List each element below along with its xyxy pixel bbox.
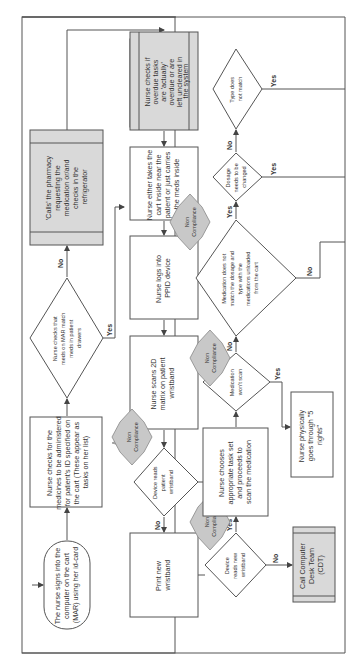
check-medicines-box: Nurse checks for the medicines to be adm… [30, 414, 102, 510]
svg-text:Compliance: Compliance [133, 422, 139, 452]
flowchart-canvas: The nurse signs into the computer on the… [0, 0, 358, 662]
med-not-match-decision: Medication does not match the dosage and… [196, 220, 296, 336]
dosage-change-decision: Dosage needs to be changed [213, 153, 262, 201]
svg-text:Non: Non [204, 353, 210, 363]
svg-text:Non: Non [204, 517, 210, 527]
svg-text:Print new wristband: Print new wristband [154, 559, 172, 591]
label-yes: Yes [106, 324, 113, 336]
svg-text:No: No [226, 342, 233, 351]
call-cdt-box: Call Computer Desk Team (CDT) [293, 527, 335, 602]
scan-2d-box: Nurse scans 2D matrix on patient wristba… [130, 336, 198, 429]
svg-text:No: No [306, 267, 313, 276]
label-no: No [57, 259, 64, 268]
start-terminator: The nurse signs into the computer on the… [44, 541, 90, 629]
print-wristband-box: Print new wristband [130, 533, 198, 617]
svg-text:Yes: Yes [226, 206, 233, 218]
svg-text:Non: Non [184, 217, 190, 227]
svg-text:No: No [226, 141, 233, 150]
type-not-match-decision: Type does not match [213, 49, 262, 129]
call-pharmacy-box: 'Calls' the pharmacy requesting the medi… [30, 130, 103, 245]
device-reads-patient-decision: Device reads patient wristband [134, 448, 198, 516]
log-ppid-box: Nurse logs into PPID device [130, 236, 198, 319]
svg-text:Nurse chooses appropriat: Nurse chooses appropriate task set and p… [217, 439, 253, 504]
svg-text:Non: Non [126, 432, 132, 442]
svg-text:Yes: Yes [270, 163, 277, 175]
svg-text:Nurse checks if overdue: Nurse checks if overdue tasks are 'actua… [143, 55, 190, 108]
meds-match-decision: Nurse checks that meds on MAR match meds… [30, 278, 103, 398]
five-rights-box: Nurse physically goes through "5 rights" [291, 392, 333, 477]
svg-text:No: No [272, 554, 279, 563]
start-text: The nurse signs into the computer on the… [53, 546, 80, 625]
check-overdue-predefined: Nurse checks if overdue tasks are 'actua… [130, 32, 198, 130]
svg-text:Compliance: Compliance [211, 343, 217, 373]
choose-task-box: Nurse chooses appropriate task set and p… [203, 428, 268, 516]
svg-text:Compliance: Compliance [191, 207, 197, 237]
svg-text:Yes: Yes [270, 75, 277, 87]
svg-text:No: No [154, 521, 161, 530]
svg-text:Nurse logs into PPID dev: Nurse logs into PPID device [154, 253, 172, 303]
svg-text:Yes: Yes [274, 368, 281, 380]
